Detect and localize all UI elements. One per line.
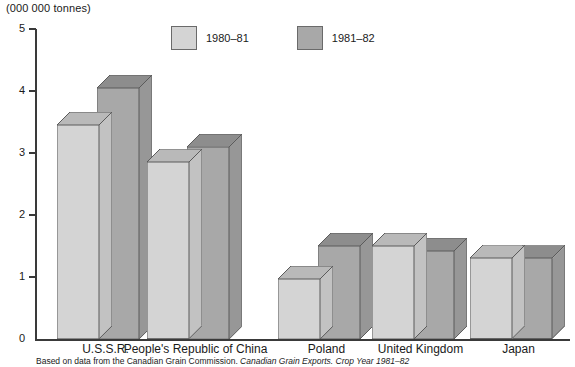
bar-front-face (57, 125, 99, 339)
bar-front-face (147, 162, 189, 339)
x-axis-line (35, 339, 570, 341)
source-note-italic: Canadian Grain Exports. Crop Year 1981–8… (240, 356, 409, 366)
y-tick-4 (29, 90, 36, 92)
bar-2-1980-81 (278, 266, 333, 339)
bar-group-1 (147, 0, 244, 339)
y-tick-label-1: 1 (0, 271, 25, 282)
bar-front-face (278, 279, 320, 339)
source-note-plain: Based on data from the Canadian Grain Co… (36, 356, 240, 366)
bar-1-1980-81 (147, 149, 202, 339)
bar-side-face (552, 245, 565, 339)
bar-group-0 (57, 0, 154, 339)
plot-area (37, 0, 570, 339)
y-tick-2 (29, 214, 36, 216)
y-tick-label-3: 3 (0, 147, 25, 158)
bar-front-face (372, 246, 414, 339)
bar-side-face (512, 245, 525, 339)
bar-group-2 (278, 0, 375, 339)
y-tick-5 (29, 28, 36, 30)
bar-3-1980-81 (372, 233, 427, 339)
source-note: Based on data from the Canadian Grain Co… (36, 357, 409, 366)
category-label-4: Japan (435, 343, 575, 356)
bar-side-face (189, 149, 202, 339)
y-tick-1 (29, 276, 36, 278)
bar-group-3 (372, 0, 469, 339)
bar-front-face (470, 258, 512, 339)
y-tick-label-4: 4 (0, 85, 25, 96)
y-tick-3 (29, 152, 36, 154)
bar-side-face (99, 112, 112, 339)
bar-side-face (229, 134, 242, 339)
bar-4-1980-81 (470, 245, 525, 339)
y-tick-label-2: 2 (0, 209, 25, 220)
bar-side-face (414, 233, 427, 339)
grain-exports-bar-chart: (000 000 tonnes) 012345 1980–81 1981–82 … (0, 0, 575, 367)
bar-0-1980-81 (57, 112, 112, 339)
y-tick-label-5: 5 (0, 23, 25, 34)
bar-side-face (454, 238, 467, 339)
bar-group-4 (470, 0, 567, 339)
